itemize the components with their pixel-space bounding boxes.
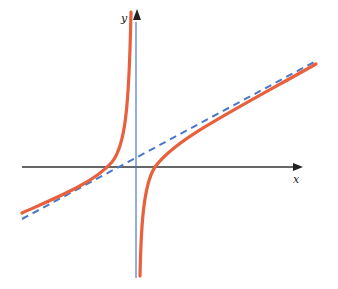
curve-right-branch (140, 64, 316, 276)
curve-left-branch (22, 12, 131, 213)
function-graph (0, 0, 338, 289)
y-axis-label: y (121, 12, 127, 25)
x-axis-label: x (293, 173, 299, 186)
x-axis-arrow-icon (293, 163, 303, 171)
y-axis-arrow-icon (133, 9, 141, 20)
slant-asymptote (22, 61, 316, 219)
